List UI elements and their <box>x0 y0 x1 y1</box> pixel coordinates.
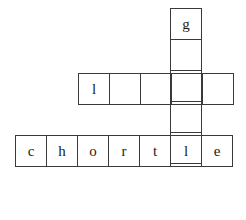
cell-letter: l <box>184 144 188 159</box>
grid-cell[interactable] <box>202 73 234 105</box>
grid-cell[interactable]: o <box>77 135 109 167</box>
cell-letter: o <box>89 144 97 159</box>
grid-cell[interactable]: h <box>46 135 78 167</box>
grid-cell[interactable]: l <box>78 73 110 105</box>
cell-letter: l <box>92 82 96 97</box>
grid-cell[interactable]: r <box>108 135 140 167</box>
grid-cell[interactable]: t <box>139 135 171 167</box>
grid-cell[interactable] <box>170 101 202 133</box>
grid-cell[interactable] <box>171 73 203 105</box>
crossword-puzzle-canvas: g l c <box>0 0 246 220</box>
grid-cell[interactable] <box>170 39 202 71</box>
grid-cell[interactable] <box>140 73 172 105</box>
cell-letter: t <box>153 144 157 159</box>
grid-cell[interactable]: g <box>170 8 202 40</box>
cell-letter: r <box>122 144 127 159</box>
grid-cell[interactable] <box>109 73 141 105</box>
cell-letter: e <box>214 144 221 159</box>
cell-letter: h <box>58 144 66 159</box>
cell-letter: c <box>28 144 35 159</box>
middle-horizontal-word-group: l <box>78 73 233 104</box>
grid-cell[interactable]: l <box>170 135 202 167</box>
bottom-horizontal-word-group: c h o r t l e <box>15 135 232 166</box>
grid-cell[interactable]: e <box>201 135 233 167</box>
cell-letter: g <box>182 17 190 32</box>
grid-cell[interactable]: c <box>15 135 47 167</box>
